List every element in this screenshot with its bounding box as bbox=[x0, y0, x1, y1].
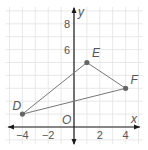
labels: DEF−4−22468xyO bbox=[12, 5, 138, 141]
x-tick-label: −2 bbox=[42, 129, 55, 141]
y-tick-label: 8 bbox=[64, 18, 70, 30]
y-axis-label: y bbox=[77, 5, 85, 19]
y-axis-arrow-down-icon bbox=[72, 139, 77, 145]
x-axis-label: x bbox=[130, 112, 138, 126]
point-label-D: D bbox=[12, 99, 21, 113]
point-label-E: E bbox=[92, 46, 101, 60]
x-tick-label: 4 bbox=[123, 129, 129, 141]
coordinate-plane: DEF−4−22468xyO bbox=[0, 0, 148, 150]
x-tick-label: 2 bbox=[97, 129, 103, 141]
point-E bbox=[84, 60, 89, 65]
x-axis-arrow-left-icon bbox=[8, 125, 14, 130]
point-F bbox=[123, 86, 128, 91]
y-axis-arrow-up-icon bbox=[72, 7, 77, 13]
y-tick-label: 6 bbox=[64, 44, 70, 56]
x-tick-label: −4 bbox=[16, 129, 29, 141]
origin-label: O bbox=[62, 113, 71, 127]
axes bbox=[8, 7, 140, 145]
point-label-F: F bbox=[131, 73, 139, 87]
